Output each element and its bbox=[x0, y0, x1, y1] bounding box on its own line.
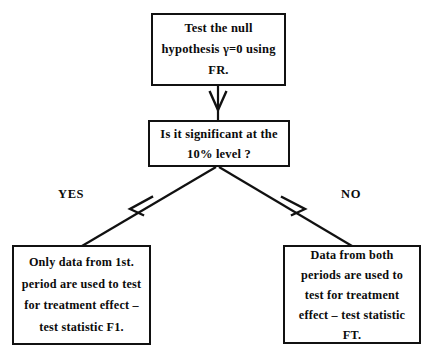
node-null-hypothesis: Test the null hypothesis γ=0 using FR. bbox=[151, 13, 286, 86]
node-line: hypothesis γ=0 using bbox=[161, 39, 275, 60]
node-line: periods are used to bbox=[301, 265, 403, 285]
node-line: for treatment effect – bbox=[24, 295, 139, 317]
node-line: Data from both bbox=[310, 245, 393, 265]
node-line: 10% level ? bbox=[187, 144, 251, 164]
node-line: test for treatment bbox=[305, 285, 400, 305]
node-line: Test the null bbox=[184, 18, 252, 39]
branch-label-no: NO bbox=[341, 187, 361, 202]
arrow-question-to-both-periods bbox=[219, 167, 352, 246]
node-line: FR. bbox=[208, 60, 228, 81]
node-line: Is it significant at the bbox=[160, 124, 277, 144]
node-line: effect – test statistic bbox=[299, 305, 405, 325]
flowchart-canvas: Test the null hypothesis γ=0 using FR. I… bbox=[0, 0, 433, 357]
node-line: test statistic F1. bbox=[39, 317, 124, 339]
node-both-periods-result: Data from both periods are used to test … bbox=[283, 245, 421, 344]
node-line: period are used to test bbox=[22, 274, 141, 296]
arrow-question-to-first-period bbox=[82, 167, 216, 246]
node-line: Only data from 1st. bbox=[29, 252, 134, 274]
node-line: FT. bbox=[343, 325, 361, 345]
node-significance-question: Is it significant at the 10% level ? bbox=[148, 120, 290, 167]
node-first-period-result: Only data from 1st. period are used to t… bbox=[12, 245, 151, 345]
arrow-null-to-question bbox=[210, 86, 226, 120]
branch-label-yes: YES bbox=[58, 187, 84, 202]
